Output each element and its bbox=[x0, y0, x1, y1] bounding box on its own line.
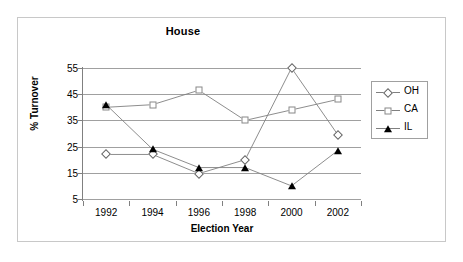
x-tick-label: 1996 bbox=[174, 207, 224, 218]
legend-line-sample bbox=[376, 92, 400, 93]
legend-item-ca[interactable]: CA bbox=[372, 102, 427, 120]
series-line-oh bbox=[106, 68, 338, 174]
x-tick-label: 2002 bbox=[313, 207, 363, 218]
x-tick-label: 1994 bbox=[128, 207, 178, 218]
legend-line-sample bbox=[376, 110, 400, 111]
legend-item-oh[interactable]: OH bbox=[372, 84, 427, 102]
y-tick-mark bbox=[77, 68, 83, 69]
legend-label: CA bbox=[404, 103, 418, 114]
y-tick-mark bbox=[77, 94, 83, 95]
x-tick-mark bbox=[222, 201, 223, 206]
y-tick-mark bbox=[77, 199, 83, 200]
x-tick-mark bbox=[268, 201, 269, 206]
legend-marker-open-square-icon bbox=[385, 108, 392, 115]
x-tick-mark bbox=[361, 201, 362, 206]
y-tick-mark bbox=[77, 120, 83, 121]
x-tick-mark bbox=[129, 201, 130, 206]
x-tick-mark bbox=[83, 201, 84, 206]
legend-label: IL bbox=[404, 121, 412, 132]
x-tick-label: 1998 bbox=[220, 207, 270, 218]
series-line-ca bbox=[106, 90, 338, 120]
y-tick-mark bbox=[77, 173, 83, 174]
legend-item-il[interactable]: IL bbox=[372, 120, 427, 138]
series-line-il bbox=[106, 105, 338, 186]
legend-label: OH bbox=[404, 85, 419, 96]
legend-line-sample bbox=[376, 128, 400, 129]
x-tick-label: 1992 bbox=[81, 207, 131, 218]
x-tick-mark bbox=[176, 201, 177, 206]
chart-frame: House % Turnover 51525354555 19921994199… bbox=[17, 17, 446, 242]
x-axis-title: Election Year bbox=[83, 223, 361, 234]
x-tick-label: 2000 bbox=[267, 207, 317, 218]
x-tick-mark bbox=[315, 201, 316, 206]
chart-legend[interactable]: OHCAIL bbox=[371, 81, 428, 139]
legend-marker-open-diamond-icon bbox=[383, 88, 393, 98]
y-tick-mark bbox=[77, 147, 83, 148]
